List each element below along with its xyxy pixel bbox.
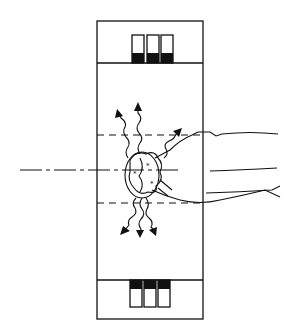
top-detector-array xyxy=(132,35,173,63)
body-outline xyxy=(152,132,280,203)
svg-text:*: * xyxy=(133,170,137,178)
downward-radiation-arrows xyxy=(120,198,157,238)
svg-text:*: * xyxy=(146,162,150,170)
diagram-canvas: Schematic of a head positioned within a … xyxy=(0,0,292,332)
head-outline: * * * xyxy=(125,152,172,198)
upward-radiation-arrows xyxy=(115,102,182,158)
imaging-chamber-diagram: * * * xyxy=(0,0,292,332)
bottom-detector-array xyxy=(130,280,170,307)
svg-text:*: * xyxy=(150,180,154,188)
